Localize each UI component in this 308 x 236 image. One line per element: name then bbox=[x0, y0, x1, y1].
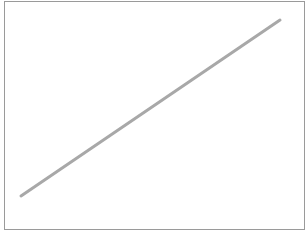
line-chart bbox=[0, 0, 308, 236]
data-line bbox=[21, 20, 280, 196]
